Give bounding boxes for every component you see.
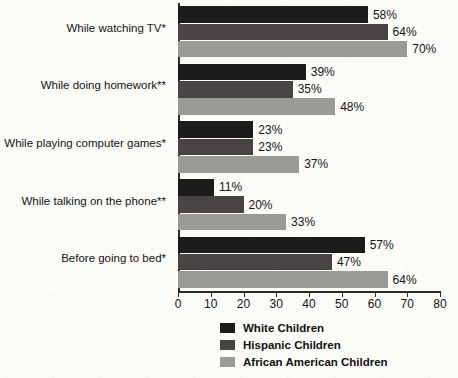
bar-value-label: 37% [304, 158, 328, 170]
bar-value-label: 33% [291, 216, 315, 228]
bar-value-label: 35% [298, 83, 322, 95]
bar [178, 214, 286, 231]
bar [178, 179, 214, 196]
bar [178, 98, 335, 115]
bar-value-label: 70% [412, 43, 436, 55]
bar-value-label: 58% [373, 9, 397, 21]
legend-item: African American Children [220, 354, 388, 370]
bar-value-label: 57% [370, 239, 394, 251]
bar-value-label: 23% [258, 124, 282, 136]
bar-value-label: 48% [340, 101, 364, 113]
category-label: Before going to bed* [0, 252, 166, 265]
category-label: While talking on the phone** [0, 195, 166, 208]
category-label: While playing computer games* [0, 137, 166, 150]
bar-value-label: 64% [393, 274, 417, 286]
x-axis-tick-label: 50 [327, 297, 357, 311]
legend-swatch-icon [220, 323, 235, 333]
category-axis-labels: While watching TV*While doing homework**… [0, 0, 172, 292]
legend-label: White Children [243, 322, 324, 334]
bar [178, 254, 332, 271]
bar-chart: While watching TV*While doing homework**… [0, 0, 458, 378]
bar [178, 41, 407, 58]
bar [178, 121, 253, 138]
bar [178, 271, 388, 288]
x-axis-tick-label: 80 [425, 297, 455, 311]
legend-label: African American Children [243, 356, 388, 368]
plot-area: 58%64%70%39%35%48%23%23%37%11%20%33%57%4… [178, 3, 440, 291]
chart-legend: White ChildrenHispanic ChildrenAfrican A… [220, 320, 388, 371]
legend-item: Hispanic Children [220, 337, 388, 353]
category-label: While doing homework** [0, 79, 166, 92]
legend-label: Hispanic Children [243, 339, 341, 351]
bar [178, 156, 299, 173]
bar [178, 24, 388, 41]
bar-value-label: 23% [258, 141, 282, 153]
bar-value-label: 64% [393, 26, 417, 38]
bar-value-label: 20% [249, 199, 273, 211]
bar [178, 64, 306, 81]
x-axis-tick-label: 0 [163, 297, 193, 311]
bar [178, 196, 244, 213]
bar [178, 6, 368, 23]
legend-swatch-icon [220, 340, 235, 350]
bar [178, 139, 253, 156]
x-axis-tick-label: 60 [360, 297, 390, 311]
x-axis-tick-label: 30 [261, 297, 291, 311]
x-axis-tick-label: 20 [229, 297, 259, 311]
bar [178, 81, 293, 98]
x-axis-tick-label: 40 [294, 297, 324, 311]
bar [178, 237, 365, 254]
legend-swatch-icon [220, 357, 235, 367]
bar-value-label: 47% [337, 256, 361, 268]
bar-value-label: 39% [311, 66, 335, 78]
x-axis-tick-label: 10 [196, 297, 226, 311]
category-label: While watching TV* [0, 22, 166, 35]
bar-value-label: 11% [219, 181, 242, 193]
x-axis-tick-label: 70 [392, 297, 422, 311]
legend-item: White Children [220, 320, 388, 336]
